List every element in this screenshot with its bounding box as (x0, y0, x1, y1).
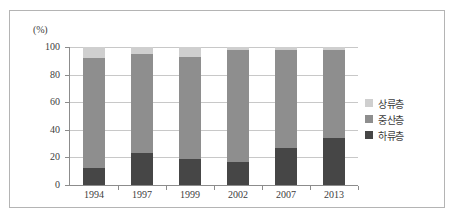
bar-segment-middle-2002[interactable] (227, 50, 249, 162)
x-axis-label-1994: 1994 (70, 189, 118, 200)
gridline-100 (70, 47, 358, 48)
bar-segment-middle-1994[interactable] (83, 58, 105, 168)
bar-2013[interactable] (323, 47, 345, 185)
y-tick-60 (65, 102, 70, 103)
bar-segment-lower-1994[interactable] (83, 168, 105, 185)
x-axis-label-2013: 2013 (310, 189, 358, 200)
legend-item-2[interactable]: 하류층 (365, 127, 435, 143)
bar-1999[interactable] (179, 47, 201, 185)
y-axis-label-60: 60 (14, 97, 60, 107)
legend-item-0[interactable]: 상류층 (365, 95, 435, 111)
y-tick-20 (65, 157, 70, 158)
y-axis-label-0: 0 (14, 180, 60, 190)
legend-label-2: 하류층 (378, 128, 404, 143)
legend-swatch-icon-1 (365, 115, 373, 123)
legend-label-1: 중산층 (378, 112, 404, 127)
bar-segment-lower-2013[interactable] (323, 138, 345, 185)
x-axis-label-1999: 1999 (166, 189, 214, 200)
bar-1997[interactable] (131, 47, 153, 185)
bar-1994[interactable] (83, 47, 105, 185)
y-axis-label-80: 80 (14, 70, 60, 80)
bar-2002[interactable] (227, 47, 249, 185)
gridline-20 (70, 157, 358, 158)
y-tick-100 (65, 47, 70, 48)
bar-segment-lower-2002[interactable] (227, 162, 249, 185)
y-tick-40 (65, 130, 70, 131)
x-axis-label-1997: 1997 (118, 189, 166, 200)
bar-segment-lower-1997[interactable] (131, 153, 153, 185)
bar-segment-upper-1997[interactable] (131, 47, 153, 54)
bar-segment-middle-1999[interactable] (179, 57, 201, 159)
legend-item-1[interactable]: 중산층 (365, 111, 435, 127)
x-axis-label-2002: 2002 (214, 189, 262, 200)
gridline-80 (70, 75, 358, 76)
gridline-60 (70, 102, 358, 103)
y-axis-label-20: 20 (14, 152, 60, 162)
bar-segment-upper-1999[interactable] (179, 47, 201, 57)
gridline-40 (70, 130, 358, 131)
legend-label-0: 상류층 (378, 96, 404, 111)
bar-2007[interactable] (275, 47, 297, 185)
y-tick-0 (65, 185, 70, 186)
legend-swatch-icon-0 (365, 99, 373, 107)
y-axis-unit-label: (%) (33, 24, 47, 35)
y-tick-80 (65, 75, 70, 76)
plot-area (70, 47, 358, 185)
x-tick-2013 (358, 186, 359, 190)
y-axis-label-100: 100 (14, 42, 60, 52)
bar-segment-upper-1994[interactable] (83, 47, 105, 58)
y-axis-label-40: 40 (14, 125, 60, 135)
chart-legend: 상류층중산층하류층 (365, 95, 435, 143)
bar-segment-lower-2007[interactable] (275, 148, 297, 185)
legend-swatch-icon-2 (365, 131, 373, 139)
chart-figure: (%) 상류층중산층하류층 02040608010019941997199920… (0, 0, 456, 222)
bar-segment-lower-1999[interactable] (179, 159, 201, 185)
bar-segment-middle-2013[interactable] (323, 50, 345, 138)
x-axis-label-2007: 2007 (262, 189, 310, 200)
bar-segment-middle-1997[interactable] (131, 54, 153, 153)
bar-segment-middle-2007[interactable] (275, 50, 297, 148)
